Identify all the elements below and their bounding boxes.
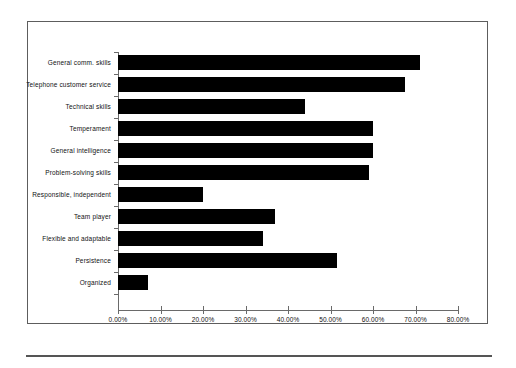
x-tick — [118, 306, 119, 314]
figure: General comm. skillsTelephone customer s… — [0, 0, 516, 368]
bar — [118, 165, 369, 180]
category-label: General comm. skills — [48, 52, 111, 74]
bar-row: Technical skills — [118, 96, 458, 118]
x-tick-label: 70.00% — [404, 316, 427, 323]
x-tick-label: 50.00% — [319, 316, 342, 323]
x-tick-label: 20.00% — [192, 316, 215, 323]
y-tick — [114, 184, 119, 185]
category-label: Temperament — [70, 118, 111, 140]
y-tick — [114, 294, 119, 295]
y-tick — [114, 228, 119, 229]
x-tick-label: 30.00% — [234, 316, 257, 323]
bar — [118, 55, 420, 70]
bar-row: Telephone customer service — [118, 74, 458, 96]
bar — [118, 99, 305, 114]
category-label: Technical skills — [66, 96, 111, 118]
bar-row: Temperament — [118, 118, 458, 140]
bar-row: Organized — [118, 272, 458, 294]
bar — [118, 209, 275, 224]
bar-row: General comm. skills — [118, 52, 458, 74]
y-tick — [114, 272, 119, 273]
y-tick — [114, 118, 119, 119]
y-tick — [114, 140, 119, 141]
y-tick — [114, 206, 119, 207]
plot-area: General comm. skillsTelephone customer s… — [118, 52, 458, 310]
x-tick — [373, 306, 374, 314]
category-label: Flexible and adaptable — [42, 228, 111, 250]
bar-row: Responsible, independent — [118, 184, 458, 206]
bar — [118, 121, 373, 136]
bar — [118, 275, 148, 290]
x-tick-label: 40.00% — [277, 316, 300, 323]
x-tick — [331, 306, 332, 314]
x-tick — [416, 306, 417, 314]
bar — [118, 187, 203, 202]
category-label: Team player — [74, 206, 111, 228]
bar — [118, 231, 263, 246]
bar-row: Problem-solving skills — [118, 162, 458, 184]
x-tick — [161, 306, 162, 314]
y-tick — [114, 162, 119, 163]
x-tick-label: 10.00% — [149, 316, 172, 323]
bar-row: Team player — [118, 206, 458, 228]
x-tick — [288, 306, 289, 314]
bar-row: Flexible and adaptable — [118, 228, 458, 250]
x-tick-label: 60.00% — [362, 316, 385, 323]
bar-row: General intelligence — [118, 140, 458, 162]
y-tick — [114, 250, 119, 251]
bar — [118, 143, 373, 158]
category-label: Telephone customer service — [26, 74, 111, 96]
x-tick-label: 0.00% — [109, 316, 128, 323]
y-tick — [114, 74, 119, 75]
bar — [118, 253, 337, 268]
x-tick — [458, 306, 459, 314]
category-label: Problem-solving skills — [45, 162, 111, 184]
y-tick — [114, 52, 119, 53]
category-label: Responsible, independent — [32, 184, 111, 206]
y-tick — [114, 96, 119, 97]
x-tick — [203, 306, 204, 314]
category-label: Organized — [80, 272, 111, 294]
bottom-rule — [26, 355, 492, 357]
category-label: Persistence — [75, 250, 111, 272]
x-tick-label: 80.00% — [447, 316, 470, 323]
category-label: General intelligence — [51, 140, 111, 162]
bar — [118, 77, 405, 92]
bar-row: Persistence — [118, 250, 458, 272]
x-tick — [246, 306, 247, 314]
